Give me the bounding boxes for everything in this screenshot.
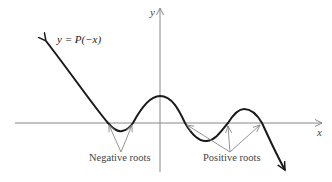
- curve-label: y = P(−x): [57, 33, 101, 45]
- pointer-positive-root-2: [228, 126, 230, 152]
- x-axis-label: x: [317, 126, 322, 138]
- graph-svg: [0, 0, 332, 182]
- negative-roots-label: Negative roots: [89, 152, 151, 163]
- y-axis-label: y: [150, 6, 155, 18]
- polynomial-curve: [46, 41, 285, 170]
- diagram-canvas: y = P(−x) y x Negative roots Positive ro…: [0, 0, 332, 182]
- positive-roots-label: Positive roots: [203, 152, 260, 163]
- pointer-positive-root-3: [230, 125, 260, 152]
